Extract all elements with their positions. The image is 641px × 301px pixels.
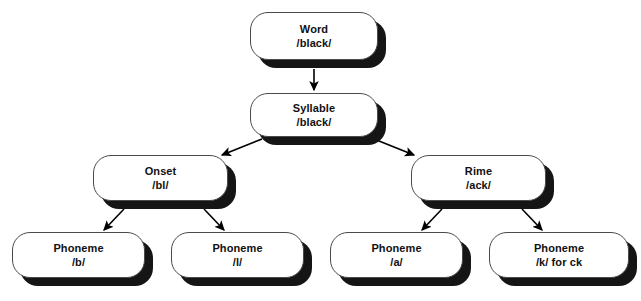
edge-syllable-to-onset <box>222 139 262 155</box>
node-phoneme-l[interactable]: Phoneme /l/ <box>171 232 304 278</box>
node-onset[interactable]: Onset /bl/ <box>93 155 228 201</box>
node-phoneme-b-value: /b/ <box>72 255 85 270</box>
node-phoneme-a-label: Phoneme <box>371 241 421 255</box>
edge-rime-to-phoneme-a <box>422 209 442 230</box>
node-phoneme-k-value: /k/ for ck <box>536 255 582 270</box>
node-word-value: /black/ <box>297 36 332 51</box>
node-phoneme-a-value: /a/ <box>390 255 403 270</box>
node-syllable-label: Syllable <box>293 101 335 115</box>
edge-onset-to-phoneme-b <box>104 209 124 230</box>
node-phoneme-a[interactable]: Phoneme /a/ <box>330 232 463 278</box>
node-phoneme-b-label: Phoneme <box>53 241 103 255</box>
edge-onset-to-phoneme-l <box>204 209 224 230</box>
node-rime-label: Rime <box>465 164 492 178</box>
node-phoneme-k-label: Phoneme <box>534 241 584 255</box>
node-phoneme-k[interactable]: Phoneme /k/ for ck <box>489 232 629 278</box>
node-phoneme-b[interactable]: Phoneme /b/ <box>12 232 145 278</box>
node-onset-label: Onset <box>145 164 177 178</box>
node-syllable-value: /black/ <box>297 115 332 130</box>
node-word[interactable]: Word /black/ <box>250 12 378 60</box>
node-phoneme-l-label: Phoneme <box>212 241 262 255</box>
node-syllable[interactable]: Syllable /black/ <box>250 93 378 137</box>
edge-syllable-to-rime <box>374 139 414 155</box>
edge-rime-to-phoneme-k <box>522 209 542 230</box>
node-onset-value: /bl/ <box>152 178 168 193</box>
phoneme-segmentation-diagram: Word /black/ Syllable /black/ Onset /bl/… <box>0 0 641 301</box>
node-rime[interactable]: Rime /ack/ <box>411 155 546 201</box>
node-word-label: Word <box>300 22 328 36</box>
node-phoneme-l-value: /l/ <box>233 255 242 270</box>
node-rime-value: /ack/ <box>466 178 491 193</box>
